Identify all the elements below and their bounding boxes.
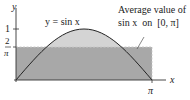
y-axis-label: y	[12, 2, 16, 12]
average-rectangle	[16, 47, 152, 80]
curve-label-text: y = sin x	[45, 16, 80, 27]
x-tick-label-pi: π	[148, 86, 153, 96]
y-tick-label-2-numerator: 2	[5, 37, 10, 46]
x-axis-label: x	[170, 75, 174, 85]
annotation-line-1: Average value of	[118, 5, 186, 15]
sin-average-diagram	[0, 0, 190, 100]
annotation-line-2: sin x on [0, π]	[118, 18, 179, 28]
y-tick-label-1: 1	[5, 24, 10, 34]
curve-label: y = sin x	[45, 17, 80, 27]
y-tick-label-pi-denominator: π	[4, 49, 9, 58]
